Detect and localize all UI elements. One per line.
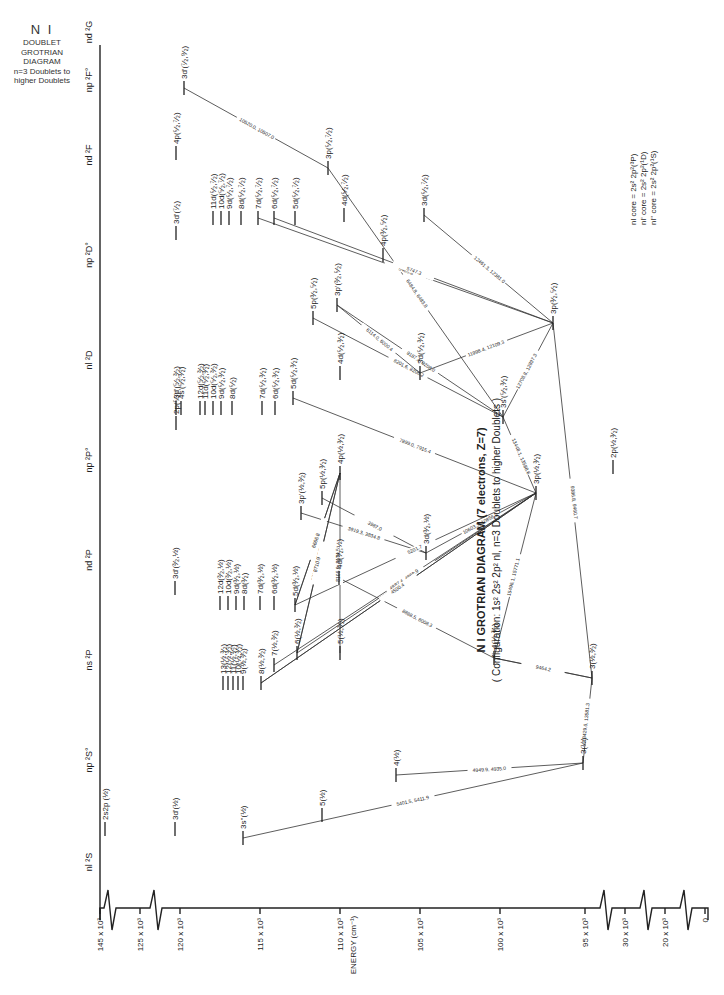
energy-level-label: 3d'(⁷⁄₂,⁹⁄₂) xyxy=(180,45,189,79)
term-column-label: np ²F° xyxy=(84,67,94,92)
energy-level-label: 3d(³⁄₂,½) xyxy=(422,513,431,544)
energy-level-label: 2p(½,³⁄₂) xyxy=(609,427,618,458)
energy-tick-label: 105 x 10³ xyxy=(416,918,425,952)
energy-level-label: 4d(³⁄₂,½) xyxy=(335,538,344,569)
energy-level-label: 3d'(½) xyxy=(171,797,180,820)
energy-level-label: 8d(⁵⁄₂,⁷⁄₂) xyxy=(237,177,246,209)
energy-tick-label: 95 x 10³ xyxy=(581,918,590,947)
energy-tick-label: 120 x 10³ xyxy=(176,918,185,952)
core-legend-line: nl' core = 2s² 2p²(¹D) xyxy=(639,151,648,225)
term-column-label: nl ²D xyxy=(84,350,94,370)
energy-level-label: 8(½,³⁄₂) xyxy=(257,648,266,674)
term-column-label: np ²S° xyxy=(84,747,94,773)
energy-level-label: 3d'(⁷⁄₂) xyxy=(172,201,181,224)
energy-level-label: 2s2p (½) xyxy=(101,788,110,820)
transition-wavelength: 13448.1, 13588.6 xyxy=(511,437,532,475)
energy-tick-label: 30 x 10³ xyxy=(621,918,630,947)
transition-wavelength: 9464.2 xyxy=(535,664,551,673)
term-column-label: nd ²P xyxy=(84,549,94,571)
core-legend-line: nl'' core = 2s² 2p²(¹S) xyxy=(649,150,658,225)
term-column-label: ns ²P xyxy=(84,649,94,670)
energy-level-label: 4(½) xyxy=(392,749,401,766)
energy-level-label: 7d(³⁄₂,½) xyxy=(256,563,265,594)
transition-wavelength: 5401.5, 5411.9 xyxy=(396,794,430,807)
energy-level-label: 5p(³⁄₂,⁵⁄₂) xyxy=(309,277,318,309)
energy-tick-label: 115 x 10³ xyxy=(256,918,265,951)
energy-level-label: 3d(⁵⁄₂,⁷⁄₂) xyxy=(420,174,429,206)
energy-level-label: 5d(⁵⁄₂,⁷⁄₂) xyxy=(291,177,300,209)
transition-wavelength: 12708.8, 12897.3 xyxy=(514,352,538,389)
energy-level-label: 4p(½,³⁄₂) xyxy=(336,433,345,464)
energy-level-label: 3p(⁵⁄₂,⁷⁄₂) xyxy=(324,127,333,159)
energy-level-label: 6d(⁵⁄₂,³⁄₂) xyxy=(271,367,280,399)
transition-wavelength: 8888.5, 8008.3 xyxy=(401,608,434,629)
energy-level-label: 3p(³⁄₂,⁵⁄₂) xyxy=(549,282,558,314)
energy-level-label: 3d(⁵⁄₂,³⁄₂) xyxy=(416,332,425,364)
diagram-title: N I GROTRIAN DIAGRAM (7 electrons, Z=7) xyxy=(475,427,487,653)
energy-level-label: 3p'(³⁄₂,⁵⁄₂) xyxy=(333,263,342,296)
energy-ticks: 145 x 10³125 x 10³120 x 10³115 x 10³110 … xyxy=(96,908,710,951)
energy-level-label: 9d(⁵⁄₂,³⁄₂) xyxy=(217,367,226,399)
energy-level-label: 7(½,³⁄₂) xyxy=(270,630,279,656)
energy-level-label: 6d(⁵⁄₂,⁷⁄₂) xyxy=(270,177,279,209)
term-column-label: np ²D° xyxy=(84,242,94,268)
energy-tick-label: 0 xyxy=(701,917,710,922)
energy-level-label: 5(½,³⁄₂) xyxy=(336,618,345,644)
transition-wavelength: 6484.8, 6483.8 xyxy=(405,278,429,309)
energy-level-label: 8d(⁵⁄₂) xyxy=(228,377,237,399)
energy-tick-label: 145 x 10³ xyxy=(96,918,105,952)
energy-level-label: 3(½,³⁄₂) xyxy=(588,643,597,669)
energy-level-label: 5d(³⁄₂,½) xyxy=(291,565,300,596)
energy-level-label: 3d'(³⁄₂,½) xyxy=(171,547,180,579)
energy-level-label: 4s'(⁵⁄₂,³⁄₂) xyxy=(177,366,186,399)
core-legend-line: nl core = 2s² 2p²(³P) xyxy=(629,153,638,225)
energy-tick-label: 110 x 10³ xyxy=(336,918,345,951)
energy-level-label: 4d(⁵⁄₂,³⁄₂) xyxy=(336,332,345,364)
energy-level-label: 3p'(½,³⁄₂) xyxy=(297,472,306,504)
energy-level-label: 7d(⁵⁄₂,³⁄₂) xyxy=(258,367,267,399)
energy-tick-label: 20 x 10³ xyxy=(661,918,670,947)
energy-level-label: 6d(³⁄₂,½) xyxy=(270,563,279,594)
transition-wavelength: 12461.3, 12381.0 xyxy=(473,255,507,285)
energy-level-label: 7d(⁵⁄₂,⁷⁄₂) xyxy=(254,177,263,209)
transition-wavelength: 3987.0 xyxy=(367,520,384,533)
energy-level-label: 5(½) xyxy=(318,789,327,806)
term-column-label: nl ²S xyxy=(84,853,94,872)
transition-wavelength: 10520.0, 10507.0 xyxy=(238,116,275,140)
energy-level-label: 3s''(½) xyxy=(239,805,248,829)
term-columns: nl ²Snp ²S°ns ²Pnd ²Pnp ²P°nl ²Dnp ²D°nd… xyxy=(84,21,94,872)
transition-wavelength: 7899.0, 7915.4 xyxy=(399,437,432,455)
energy-tick-label: 100 x 10³ xyxy=(496,918,505,952)
transition-wavelength: 11998.4, 12109.3 xyxy=(467,338,505,357)
energy-level-label: 9d(⁵⁄₂,⁷⁄₂) xyxy=(225,177,234,209)
energy-level-label: 4d(⁵⁄₂,⁷⁄₂) xyxy=(340,174,349,206)
energy-level-label: 13(½,³⁄₂) xyxy=(219,643,228,674)
energy-level-label: 3p(½,³⁄₂) xyxy=(532,453,541,484)
transition-wavelength: 4949.9, 4935.0 xyxy=(473,765,507,773)
term-column-label: nd ²F xyxy=(84,144,94,166)
energy-levels: 2s2p (½)3d'(½)3s''(½)5(½)4(½)3(½)3(½,³⁄₂… xyxy=(101,45,618,845)
energy-level-label: 8d(³⁄₂) xyxy=(240,572,249,594)
term-column-label: np ²P° xyxy=(84,447,94,473)
grotrian-diagram: 145 x 10³125 x 10³120 x 10³115 x 10³110 … xyxy=(0,0,724,995)
energy-level-label: 5p(½,³⁄₂) xyxy=(318,458,327,489)
transition-wavelength: 6114.0, 6000.4 xyxy=(365,327,394,353)
energy-level-label: 5d(⁵⁄₂,³⁄₂) xyxy=(289,357,298,389)
transition-wavelength: 5201.7 xyxy=(406,543,423,555)
energy-axis-label: ENERGY (cm⁻¹) xyxy=(349,915,358,974)
energy-axis-line xyxy=(100,890,708,930)
energy-level-label: 4p(³⁄₂,⁵⁄₂) xyxy=(379,214,388,246)
term-column-label: nd ²G xyxy=(84,21,94,44)
energy-level-label: 3(½) xyxy=(579,737,588,754)
energy-level-label: 6(½,³⁄₂) xyxy=(293,618,302,644)
energy-tick-label: 125 x 10³ xyxy=(136,918,145,952)
energy-level-label: 4p(⁵⁄₂,⁷⁄₂) xyxy=(172,112,181,144)
diagram-subtitle: ( Configuration: 1s² 2s² 2p² nl, n=3 Dou… xyxy=(491,398,502,682)
